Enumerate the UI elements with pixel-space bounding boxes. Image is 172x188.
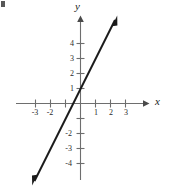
plotted-line [32, 16, 117, 186]
x-tick-label-3: 3 [118, 109, 134, 117]
cartesian-plot [0, 0, 172, 188]
y-tick-label-2: 2 [58, 70, 74, 78]
y-tick-label-neg4: -4 [56, 160, 72, 168]
y-tick-label-neg3: -3 [56, 145, 72, 153]
x-tick-label-neg3: -3 [27, 109, 43, 117]
x-axis-label: x [155, 96, 160, 107]
x-tick-label-1: 1 [88, 109, 104, 117]
y-axis [77, 16, 84, 181]
y-tick-label-neg2: -2 [56, 130, 72, 138]
y-tick-label-4: 4 [58, 40, 74, 48]
y-axis-label: y [75, 1, 80, 12]
y-tick-label-3: 3 [58, 55, 74, 63]
x-tick-label-neg2: -2 [42, 109, 58, 117]
graph-figure: y x -3 -2 1 2 3 4 3 2 1 -2 -3 -4 [0, 0, 172, 188]
y-tick-label-1: 1 [58, 85, 74, 93]
x-tick-label-2: 2 [103, 109, 119, 117]
